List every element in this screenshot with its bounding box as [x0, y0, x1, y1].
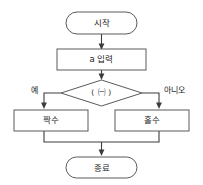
- node-even[interactable]: 짝수: [14, 110, 88, 131]
- node-input-label: a 입력: [90, 54, 114, 64]
- node-end-label: 종료: [94, 163, 110, 173]
- node-start[interactable]: 시작: [66, 12, 137, 34]
- node-odd-label: 홀수: [144, 115, 160, 125]
- connector-decision-to-even: [41, 93, 61, 109]
- branch-label-yes: 예: [31, 85, 38, 95]
- node-decision[interactable]: ( ㈠ ): [61, 80, 142, 106]
- flowchart-diagram: 시작 a 입력 ( ㈠ ) 예 아니오 짝수 홀수 종료: [0, 0, 203, 185]
- connector-start-to-input: [99, 34, 105, 50]
- node-start-label: 시작: [94, 18, 110, 28]
- branch-label-no: 아니오: [164, 85, 185, 95]
- node-end[interactable]: 종료: [66, 157, 137, 178]
- connector-odd-to-merge: [102, 131, 160, 142]
- connector-merge-to-end: [99, 142, 105, 156]
- flowchart-canvas: 시작 a 입력 ( ㈠ ) 예 아니오 짝수 홀수 종료: [0, 0, 203, 185]
- connector-input-to-decision: [99, 70, 105, 80]
- node-even-label: 짝수: [43, 115, 59, 125]
- node-odd[interactable]: 홀수: [115, 110, 189, 131]
- connector-even-to-merge: [44, 131, 102, 142]
- node-input[interactable]: a 입력: [57, 49, 146, 70]
- connector-decision-to-odd: [142, 93, 162, 109]
- node-decision-label: ( ㈠ ): [91, 87, 112, 97]
